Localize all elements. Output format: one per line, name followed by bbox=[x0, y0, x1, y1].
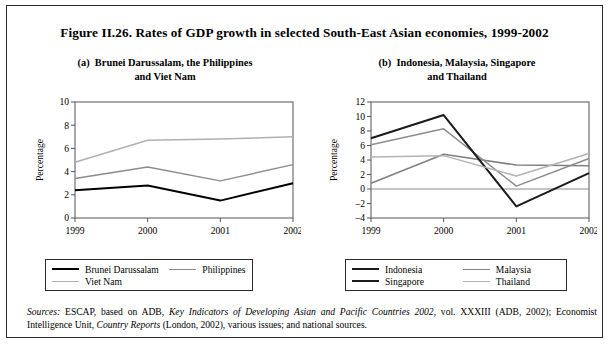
legend-swatch-icon bbox=[463, 281, 490, 282]
sources-label: Sources: bbox=[27, 306, 60, 317]
legend-swatch-icon bbox=[352, 280, 379, 282]
y-axis-label: Percentage bbox=[328, 139, 339, 181]
legend-item-singapore[interactable]: Singapore bbox=[352, 276, 453, 287]
y-tick-label: 10 bbox=[355, 111, 365, 122]
y-tick-label: 0 bbox=[64, 212, 69, 223]
legend-label: Singapore bbox=[385, 276, 424, 287]
legend-label: Philippines bbox=[202, 264, 245, 275]
legend-swatch-icon bbox=[169, 269, 196, 270]
chart-b-legend-grid: IndonesiaMalaysiaSingaporeThailand bbox=[352, 264, 560, 286]
y-tick-label: 8 bbox=[360, 125, 365, 136]
x-tick-label: 2000 bbox=[138, 225, 157, 236]
legend-label: Brunei Darussalam bbox=[85, 264, 159, 275]
x-tick-label: 2001 bbox=[211, 225, 230, 236]
y-axis-label: Percentage bbox=[34, 139, 45, 181]
y-tick-label: 12 bbox=[355, 96, 365, 107]
legend-item-indonesia[interactable]: Indonesia bbox=[352, 264, 453, 275]
legend-label: Malaysia bbox=[496, 264, 531, 275]
y-tick-label: 4 bbox=[360, 154, 365, 165]
x-tick-label: 1999 bbox=[361, 225, 380, 236]
chart-a-legend-grid: Brunei DarussalamPhilippinesViet Nam bbox=[52, 264, 246, 286]
sources-note: Sources: ESCAP, based on ADB, Key Indica… bbox=[27, 305, 597, 331]
y-tick-label: 4 bbox=[64, 166, 69, 177]
figure-title: Figure II.26. Rates of GDP growth in sel… bbox=[7, 25, 602, 41]
panel-a-title-line1: (a) Brunei Darussalam, the Philippines bbox=[78, 57, 253, 68]
legend-label: Thailand bbox=[496, 276, 530, 287]
y-tick-label: –2 bbox=[354, 198, 365, 209]
legend-swatch-icon bbox=[52, 281, 79, 282]
legend-label: Viet Nam bbox=[85, 276, 122, 287]
chart-a-legend: Brunei DarussalamPhilippinesViet Nam bbox=[45, 259, 253, 291]
legend-swatch-icon bbox=[352, 268, 379, 270]
series-line-philippines bbox=[75, 165, 293, 181]
sources-italic-1: Key Indicators of Developing Asian and P… bbox=[169, 306, 434, 317]
series-line-singapore bbox=[371, 115, 589, 206]
chart-panel-a: 02468101999200020012002Percentage bbox=[29, 94, 301, 244]
y-tick-label: 6 bbox=[64, 143, 69, 154]
x-tick-label: 2001 bbox=[507, 225, 526, 236]
legend-item-viet-nam[interactable]: Viet Nam bbox=[52, 276, 159, 287]
series-line-indonesia bbox=[371, 154, 589, 183]
series-line-malaysia bbox=[371, 129, 589, 186]
sources-text-3: (London, 2002), various issues; and nati… bbox=[160, 319, 367, 330]
panel-b-title: (b) Indonesia, Malaysia, Singapore and T… bbox=[319, 56, 595, 83]
y-tick-label: 2 bbox=[64, 189, 69, 200]
y-tick-label: –4 bbox=[354, 212, 365, 223]
legend-label: Indonesia bbox=[385, 264, 422, 275]
legend-item-brunei-darussalam[interactable]: Brunei Darussalam bbox=[52, 264, 159, 275]
y-tick-label: 8 bbox=[64, 120, 69, 131]
y-tick-label: 10 bbox=[59, 96, 69, 107]
sources-text-1: ESCAP, based on ADB, bbox=[60, 306, 169, 317]
series-line-brunei-darussalam bbox=[75, 183, 293, 200]
sources-italic-2: Country Reports bbox=[97, 319, 161, 330]
panel-b-title-line1: (b) Indonesia, Malaysia, Singapore bbox=[379, 57, 536, 68]
legend-swatch-icon bbox=[52, 268, 79, 270]
chart-b-svg: –4–20246810121999200020012002Percentage bbox=[321, 94, 597, 244]
y-tick-label: 6 bbox=[360, 140, 365, 151]
chart-a-svg: 02468101999200020012002Percentage bbox=[29, 94, 301, 244]
legend-swatch-icon bbox=[463, 269, 490, 270]
y-tick-label: 2 bbox=[360, 169, 365, 180]
plot-frame bbox=[75, 102, 293, 218]
x-tick-label: 2002 bbox=[579, 225, 597, 236]
figure-container: Figure II.26. Rates of GDP growth in sel… bbox=[6, 5, 603, 338]
legend-item-thailand[interactable]: Thailand bbox=[463, 276, 560, 287]
series-line-viet-nam bbox=[75, 137, 293, 163]
chart-b-legend: IndonesiaMalaysiaSingaporeThailand bbox=[345, 259, 567, 291]
y-tick-label: 0 bbox=[360, 183, 365, 194]
x-tick-label: 2002 bbox=[283, 225, 301, 236]
chart-panel-b: –4–20246810121999200020012002Percentage bbox=[321, 94, 597, 244]
legend-item-malaysia[interactable]: Malaysia bbox=[463, 264, 560, 275]
legend-item-philippines[interactable]: Philippines bbox=[169, 264, 246, 275]
panel-b-title-line2: and Thailand bbox=[427, 71, 487, 82]
x-tick-label: 1999 bbox=[65, 225, 84, 236]
panel-a-title: (a) Brunei Darussalam, the Philippines a… bbox=[27, 56, 303, 83]
panel-a-title-line2: and Viet Nam bbox=[134, 71, 195, 82]
x-tick-label: 2000 bbox=[434, 225, 453, 236]
